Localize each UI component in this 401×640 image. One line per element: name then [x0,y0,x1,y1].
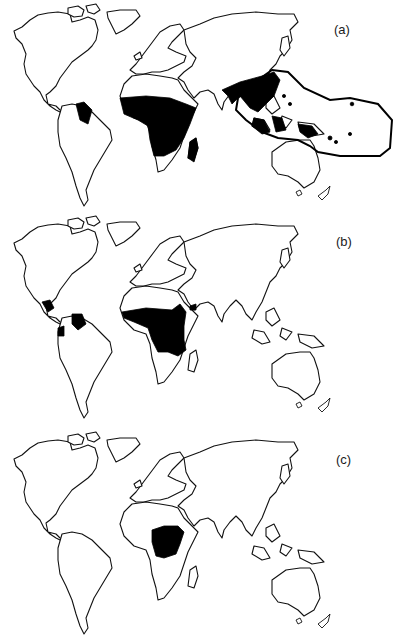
range-africa [120,96,196,156]
map-panel-c: (c) [0,428,401,640]
map-panel-a: (a) [0,0,401,212]
range-colombia-coast [58,326,64,336]
panel-label-a: (a) [334,22,350,37]
panel-label-c: (c) [336,452,351,467]
range-madagascar [188,138,198,162]
panel-label-b: (b) [336,234,352,249]
map-panel-b: (b) [0,212,401,425]
